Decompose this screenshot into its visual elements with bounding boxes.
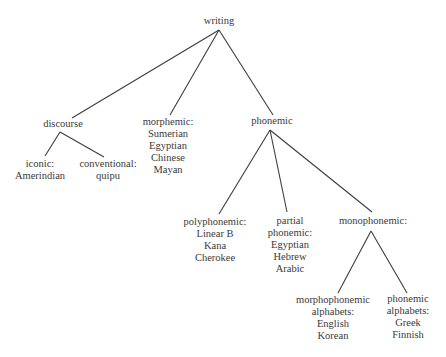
- node-label: discourse: [43, 118, 83, 130]
- node-polyphonemic: polyphonemic: Linear B Kana Cherokee: [184, 216, 247, 264]
- node-example: Greek: [387, 317, 430, 329]
- node-label: iconic:: [15, 158, 65, 170]
- node-label: partial: [268, 215, 312, 227]
- node-example: Sumerian: [143, 128, 194, 140]
- edge-phonemic-monophonemic: [270, 130, 372, 212]
- edge-phonemic-polyphonemic: [219, 130, 270, 214]
- edge-writing-phonemic: [219, 30, 273, 115]
- node-example: Hebrew: [268, 251, 312, 263]
- tree-edges: [0, 0, 446, 357]
- node-iconic: iconic: Amerindian: [15, 158, 65, 182]
- node-label: morphophonemic: [296, 294, 370, 306]
- node-label: writing: [204, 15, 234, 27]
- node-example: English: [296, 318, 370, 330]
- node-label: alphabets:: [296, 306, 370, 318]
- node-example: Cherokee: [184, 252, 247, 264]
- edge-writing-discourse: [72, 30, 219, 118]
- edge-monophonemic-phonemic-alphabets: [371, 231, 407, 293]
- node-example: Chinese: [143, 152, 194, 164]
- node-morphemic: morphemic: Sumerian Egyptian Chinese May…: [143, 116, 194, 176]
- node-example: Arabic: [268, 263, 312, 275]
- node-morphophonemic-alphabets: morphophonemic alphabets: English Korean: [296, 294, 370, 342]
- node-label: morphemic:: [143, 116, 194, 128]
- node-label: conventional:: [79, 158, 136, 170]
- node-example: Amerindian: [15, 170, 65, 182]
- node-label: alphabets:: [387, 305, 430, 317]
- node-example: Finnish: [387, 329, 430, 341]
- node-monophonemic: monophonemic:: [339, 215, 407, 227]
- node-phonemic-alphabets: phonemic alphabets: Greek Finnish: [387, 293, 430, 341]
- node-discourse: discourse: [43, 118, 83, 130]
- node-label: phonemic:: [268, 227, 312, 239]
- edge-discourse-conventional: [60, 132, 104, 157]
- edge-discourse-iconic: [45, 132, 60, 156]
- node-example: Egyptian: [143, 140, 194, 152]
- edge-monophonemic-morphophonemic: [338, 231, 371, 293]
- node-conventional: conventional: quipu: [79, 158, 136, 182]
- node-example: Korean: [296, 330, 370, 342]
- edge-writing-morphemic: [170, 30, 219, 115]
- node-example: Mayan: [143, 164, 194, 176]
- node-partial-phonemic: partial phonemic: Egyptian Hebrew Arabic: [268, 215, 312, 275]
- node-example: quipu: [79, 170, 136, 182]
- node-example: Linear B: [184, 228, 247, 240]
- node-example: Egyptian: [268, 239, 312, 251]
- node-label: monophonemic:: [339, 215, 407, 227]
- node-phonemic: phonemic: [251, 115, 292, 127]
- node-label: polyphonemic:: [184, 216, 247, 228]
- node-writing: writing: [204, 15, 234, 27]
- node-example: Kana: [184, 240, 247, 252]
- node-label: phonemic: [251, 115, 292, 127]
- node-label: phonemic: [387, 293, 430, 305]
